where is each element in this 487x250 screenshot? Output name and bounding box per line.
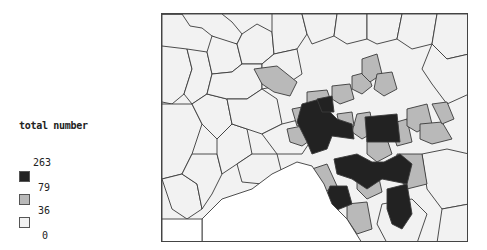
choropleth-map — [161, 13, 468, 242]
open-water — [162, 219, 202, 242]
legend-break-0: 0 — [42, 230, 48, 241]
legend-title: total number — [19, 120, 88, 131]
legend-break-263: 263 — [33, 157, 51, 168]
map-svg — [162, 14, 468, 242]
legend-swatch-medium — [19, 194, 30, 205]
legend-swatch-low — [19, 217, 30, 228]
legend-swatch-high — [19, 171, 30, 182]
legend-break-36: 36 — [38, 205, 50, 216]
legend-break-79: 79 — [38, 182, 50, 193]
